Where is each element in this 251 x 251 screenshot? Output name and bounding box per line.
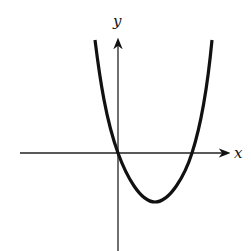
x-axis-label: x [234, 144, 243, 162]
curve [95, 40, 212, 202]
y-axis-label: y [112, 12, 122, 30]
function-graph: y x [0, 0, 251, 251]
